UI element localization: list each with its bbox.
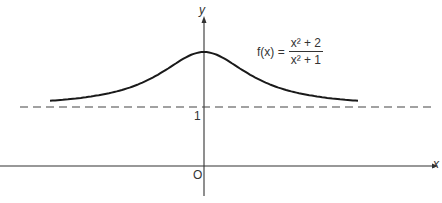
function-formula: f(x) = x² + 2 x² + 1 [257, 36, 323, 67]
function-plot [0, 0, 442, 203]
formula-denominator: x² + 1 [289, 52, 323, 67]
origin-label: O [193, 168, 202, 182]
formula-lhs: f(x) = [257, 45, 285, 59]
y-axis-arrow-icon [202, 16, 207, 23]
y-tick-1-label: 1 [194, 109, 201, 123]
x-axis-label: x [433, 157, 439, 171]
y-axis-label: y [199, 3, 205, 17]
formula-fraction: x² + 2 x² + 1 [289, 36, 323, 67]
formula-numerator: x² + 2 [289, 36, 323, 52]
